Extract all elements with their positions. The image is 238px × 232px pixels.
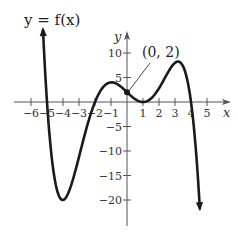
y-tick-label: −5 — [106, 121, 122, 134]
x-tick-label: −3 — [71, 107, 87, 120]
ticks: −6−5−4−3−2−112345105−5−10−15−20 — [23, 47, 211, 207]
x-tick-label: 1 — [140, 107, 147, 120]
x-tick-label: 5 — [204, 107, 211, 120]
x-axis-label: x — [223, 105, 231, 120]
x-tick-label: 3 — [172, 107, 179, 120]
point-leader-line — [128, 63, 150, 92]
y-axis-label: y — [113, 29, 122, 44]
x-tick-label: −1 — [103, 107, 119, 120]
x-tick-label: 2 — [156, 107, 163, 120]
y-tick-label: −20 — [99, 194, 122, 207]
function-graph: −6−5−4−3−2−112345105−5−10−15−20 y = f(x)… — [0, 0, 238, 232]
y-tick-label: −10 — [99, 145, 122, 158]
y-tick-label: −15 — [99, 170, 122, 183]
y-tick-label: 10 — [108, 47, 122, 60]
x-tick-label: −4 — [55, 107, 71, 120]
x-tick-label: −6 — [23, 107, 39, 120]
y-intercept-point — [124, 89, 130, 95]
curve-arrow-down-icon — [196, 202, 203, 211]
point-annotation: (0, 2) — [142, 44, 180, 60]
function-title: y = f(x) — [23, 11, 80, 29]
